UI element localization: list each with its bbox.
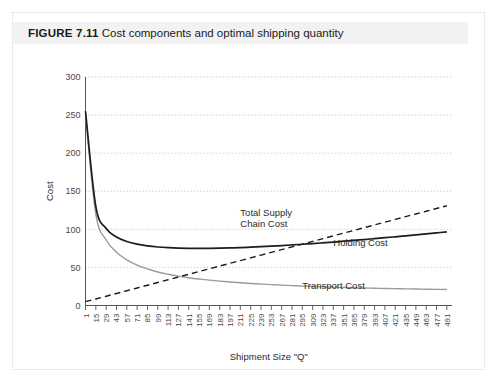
chart-plot-area: 050100150200250300 115294357718599113127…: [0, 0, 501, 392]
svg-text:379: 379: [360, 313, 369, 327]
svg-text:1: 1: [82, 313, 91, 318]
x-axis-tick-labels: 1152943577185991131271411551691831972112…: [82, 313, 452, 327]
svg-text:100: 100: [65, 225, 80, 235]
svg-text:463: 463: [422, 313, 431, 327]
svg-text:250: 250: [65, 110, 80, 120]
transport-cost-label: Transport Cost: [302, 280, 365, 291]
svg-text:43: 43: [112, 313, 121, 322]
total-supply-chain-cost-label-line2: Chain Cost: [240, 218, 287, 229]
svg-text:393: 393: [371, 313, 380, 327]
svg-text:155: 155: [195, 313, 204, 327]
svg-text:421: 421: [391, 313, 400, 327]
svg-text:169: 169: [205, 313, 214, 327]
svg-text:337: 337: [329, 313, 338, 327]
svg-text:127: 127: [174, 313, 183, 327]
cost-components-line-chart: 050100150200250300 115294357718599113127…: [0, 0, 501, 392]
svg-text:150: 150: [65, 186, 80, 196]
axis-tick-marks: [86, 306, 447, 311]
svg-text:141: 141: [185, 313, 194, 327]
svg-text:449: 449: [412, 313, 421, 327]
svg-text:85: 85: [143, 313, 152, 322]
total-supply-chain-cost-label-line1: Total Supply: [240, 207, 292, 218]
svg-text:365: 365: [350, 313, 359, 327]
svg-text:351: 351: [340, 313, 349, 327]
svg-text:113: 113: [164, 313, 173, 326]
svg-text:200: 200: [65, 148, 80, 158]
svg-text:253: 253: [267, 313, 276, 327]
svg-text:15: 15: [92, 313, 101, 322]
x-axis-title: Shipment Size "Q": [230, 351, 308, 362]
svg-text:491: 491: [443, 313, 452, 327]
transport-cost-curve: [86, 115, 447, 289]
svg-text:309: 309: [309, 313, 318, 327]
svg-text:435: 435: [402, 313, 411, 327]
svg-text:197: 197: [226, 313, 235, 327]
svg-text:267: 267: [278, 313, 287, 327]
y-axis-title: Cost: [44, 181, 55, 201]
svg-text:29: 29: [102, 313, 111, 322]
holding-cost-label: Holding Cost: [333, 237, 388, 248]
svg-text:295: 295: [298, 313, 307, 327]
svg-text:323: 323: [319, 313, 328, 327]
svg-text:407: 407: [381, 313, 390, 327]
svg-text:99: 99: [154, 313, 163, 322]
series-annotations: Total Supply Chain Cost Holding Cost Tra…: [240, 207, 388, 291]
svg-text:477: 477: [433, 313, 442, 327]
svg-text:281: 281: [288, 313, 297, 327]
grid-lines: [86, 77, 453, 306]
svg-text:57: 57: [123, 313, 132, 322]
y-axis-tick-labels: 050100150200250300: [65, 72, 80, 311]
svg-text:71: 71: [133, 313, 142, 322]
svg-text:50: 50: [70, 263, 80, 273]
svg-text:225: 225: [247, 313, 256, 327]
svg-text:183: 183: [216, 313, 225, 327]
svg-text:300: 300: [65, 72, 80, 82]
svg-text:211: 211: [236, 313, 245, 326]
svg-text:0: 0: [75, 301, 80, 311]
svg-text:239: 239: [257, 313, 266, 327]
figure-root: FIGURE 7.11 Cost components and optimal …: [0, 0, 501, 392]
